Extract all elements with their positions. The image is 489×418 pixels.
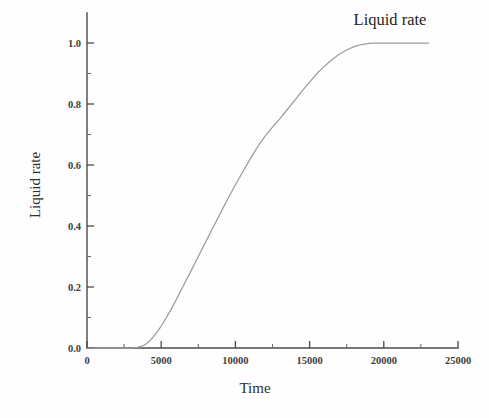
x-tick-label: 5000 — [151, 355, 172, 366]
x-tick-label: 25000 — [445, 355, 471, 366]
liquid-rate-line-chart: 0.00.20.40.60.81.0 050001000015000200002… — [0, 0, 489, 418]
x-tick-label: 20000 — [371, 355, 397, 366]
series-line-liquid-rate — [87, 43, 428, 348]
y-tick-label: 0.4 — [68, 221, 82, 232]
x-tick-label: 0 — [84, 355, 89, 366]
chart-title: Liquid rate — [354, 10, 427, 29]
y-axis-title: Liquid rate — [27, 152, 43, 219]
x-axis-title: Time — [239, 380, 270, 396]
x-tick-label: 15000 — [296, 355, 322, 366]
y-axis-tick-labels: 0.00.20.40.60.81.0 — [68, 38, 82, 354]
y-tick-label: 0.2 — [68, 282, 81, 293]
x-tick-label: 10000 — [222, 355, 248, 366]
x-axis-tick-labels: 0500010000150002000025000 — [84, 355, 471, 366]
y-tick-label: 1.0 — [68, 38, 81, 49]
chart-page: 0.00.20.40.60.81.0 050001000015000200002… — [0, 0, 489, 418]
y-tick-label: 0.8 — [68, 99, 81, 110]
y-tick-label: 0.6 — [68, 160, 81, 171]
y-tick-label: 0.0 — [68, 343, 81, 354]
